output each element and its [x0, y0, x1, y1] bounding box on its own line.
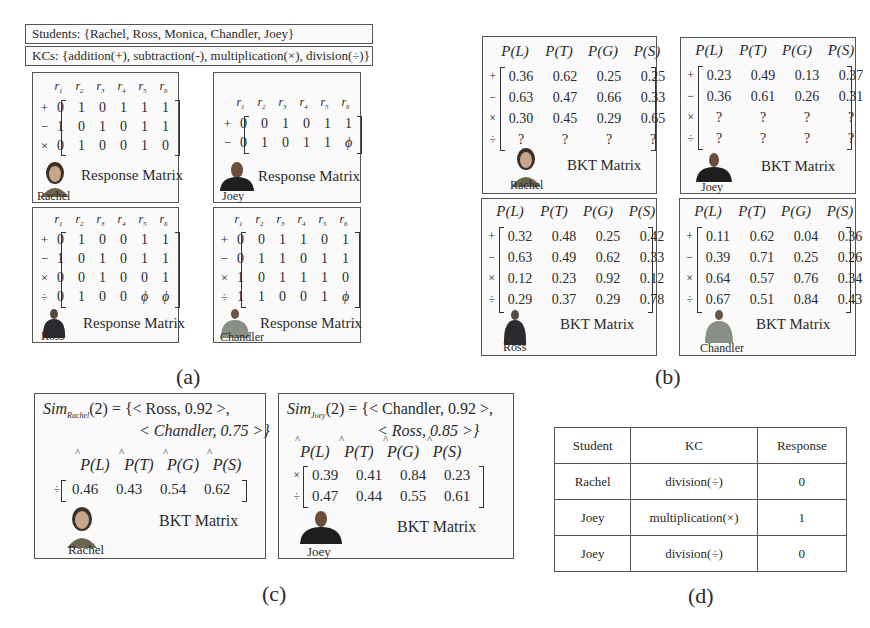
response-column-headers: r1 r2 r3 r4 r5 r6	[48, 212, 174, 228]
joey-avatar-icon	[299, 510, 343, 544]
students-banner: Students: {Rachel, Ross, Monica, Chandle…	[25, 24, 373, 44]
predicted-bkt-rachel: SimRachel(2) = {< Ross, 0.92 >, < Chandl…	[34, 393, 266, 559]
bkt-matrix-values: +0.360.620.250.25 −0.630.470.660.33 ×0.3…	[483, 66, 675, 150]
student-name: Ross	[41, 329, 64, 344]
bkt-matrix-values: ÷0.460.430.540.62	[47, 479, 239, 500]
response-matrix-values: +010111 −101011 ×010010	[35, 98, 176, 155]
matrix-title: BKT Matrix	[159, 512, 238, 530]
matrix-title: Response Matrix	[83, 315, 185, 332]
response-matrix-rachel: r1 r2 r3 r4 r5 r6 +010111 −101011 ×01001…	[32, 72, 179, 203]
similarity-set-rachel: SimRachel(2) = {< Ross, 0.92 >,	[43, 400, 230, 420]
cell-student: Rachel	[555, 464, 631, 500]
kcs-banner: KCs: {addition(+), subtraction(-), multi…	[25, 46, 373, 66]
predicted-bkt-joey: SimJoey(2) = {< Chandler, 0.92 >, < Ross…	[278, 393, 514, 559]
student-name: Chandler	[700, 341, 744, 356]
table-row: Joey multiplication(×) 1	[555, 500, 847, 536]
bkt-matrix-values: +0.230.490.130.37 −0.360.610.260.31 ×???…	[681, 65, 870, 149]
bkt-matrix-values: +0.320.480.250.42 −0.630.490.620.33 ×0.1…	[482, 226, 674, 310]
cell-response: 1	[757, 500, 846, 536]
student-name: Rachel	[37, 189, 70, 204]
matrix-title: BKT Matrix	[567, 157, 641, 174]
response-matrix-ross: r1 r2 r3 r4 r5 r6 +010011 −101011 ×00100…	[32, 207, 179, 343]
bkt-column-headers: P(L)P(T)P(G)P(S)	[687, 42, 863, 59]
response-column-headers: r1 r2 r3 r4 r5 r6	[230, 95, 356, 111]
joey-avatar-icon	[219, 161, 255, 191]
response-matrix-values: +001101 −011011 ×101110 ÷11001ϕ	[215, 230, 356, 306]
matrix-title: Response Matrix	[81, 167, 183, 184]
bkt-column-headers: P(L)P(T)P(G)P(S)	[73, 456, 249, 474]
predicted-responses-table: Student KC Response Rachel division(÷) 0…	[554, 427, 847, 572]
bkt-matrix-values: +0.110.620.040.36 −0.390.710.250.26 ×0.6…	[680, 226, 870, 310]
student-name: Rachel	[68, 542, 104, 558]
student-name: Ross	[503, 340, 526, 355]
cell-response: 0	[757, 536, 846, 572]
bkt-matrix-values: ×0.390.410.840.23 ÷0.470.440.550.61	[287, 465, 479, 507]
cell-kc: multiplication(×)	[631, 500, 757, 536]
header-response: Response	[757, 428, 846, 464]
matrix-title: BKT Matrix	[761, 158, 835, 175]
response-column-headers: r1 r2 r3 r4 r5 r6	[228, 212, 354, 228]
matrix-title: BKT Matrix	[560, 316, 634, 333]
caption-b: (b)	[655, 364, 681, 390]
student-name: Joey	[701, 180, 723, 195]
response-matrix-joey: r1 r2 r3 r4 r5 r6 +001011 −01011ϕ Joey R…	[213, 72, 361, 203]
student-name: Rachel	[510, 178, 543, 193]
response-matrix-values: +010011 −101011 ×001001 ÷0100ϕϕ	[35, 230, 176, 306]
bkt-column-headers: P(L)P(T)P(G)P(S)	[488, 203, 664, 220]
bkt-column-headers: P(L)P(T)P(G)P(S)	[493, 43, 669, 60]
table-row: Rachel division(÷) 0	[555, 464, 847, 500]
student-name: Joey	[307, 544, 331, 560]
cell-student: Joey	[555, 536, 631, 572]
caption-d: (d)	[688, 583, 714, 609]
cell-student: Joey	[555, 500, 631, 536]
response-matrix-values: +001011 −01011ϕ	[218, 114, 359, 152]
bkt-matrix-joey: P(L)P(T)P(G)P(S) +0.230.490.130.37 −0.36…	[680, 37, 856, 194]
matrix-title: BKT Matrix	[397, 518, 476, 536]
chandler-avatar-icon	[704, 309, 734, 343]
response-matrix-chandler: r1 r2 r3 r4 r5 r6 +001101 −011011 ×10111…	[213, 207, 361, 343]
bkt-matrix-rachel: P(L)P(T)P(G)P(S) +0.360.620.250.25 −0.63…	[482, 36, 657, 194]
header-student: Student	[555, 428, 631, 464]
similarity-set-joey: SimJoey(2) = {< Chandler, 0.92 >,	[287, 400, 493, 420]
student-name: Chandler	[220, 330, 264, 345]
matrix-title: BKT Matrix	[756, 316, 830, 333]
matrix-title: Response Matrix	[258, 168, 360, 185]
kcs-label: KCs: {addition(+), subtraction(-), multi…	[32, 48, 370, 63]
bkt-matrix-ross: P(L)P(T)P(G)P(S) +0.320.480.250.42 −0.63…	[481, 198, 657, 356]
bkt-column-headers: P(L)P(T)P(G)P(S)	[686, 203, 862, 220]
bkt-matrix-chandler: P(L)P(T)P(G)P(S) +0.110.620.040.36 −0.39…	[679, 198, 856, 356]
caption-c: (c)	[262, 581, 286, 607]
header-kc: KC	[631, 428, 757, 464]
cell-response: 0	[757, 464, 846, 500]
joey-avatar-icon	[695, 152, 733, 182]
students-label: Students: {Rachel, Ross, Monica, Chandle…	[32, 26, 294, 41]
cell-kc: division(÷)	[631, 536, 757, 572]
caption-a: (a)	[176, 364, 200, 390]
similarity-set-rachel-cont: < Chandler, 0.75 >}	[139, 422, 270, 440]
cell-kc: division(÷)	[631, 464, 757, 500]
table-row: Joey division(÷) 0	[555, 536, 847, 572]
response-column-headers: r1 r2 r3 r4 r5 r6	[48, 79, 174, 95]
bkt-column-headers: P(L)P(T)P(G)P(S)	[293, 443, 469, 461]
matrix-title: Response Matrix	[260, 315, 362, 332]
student-name: Joey	[222, 189, 244, 204]
table-header-row: Student KC Response	[555, 428, 847, 464]
